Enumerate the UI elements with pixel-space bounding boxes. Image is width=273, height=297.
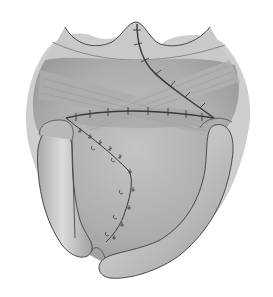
surgical-illustration	[0, 0, 273, 297]
